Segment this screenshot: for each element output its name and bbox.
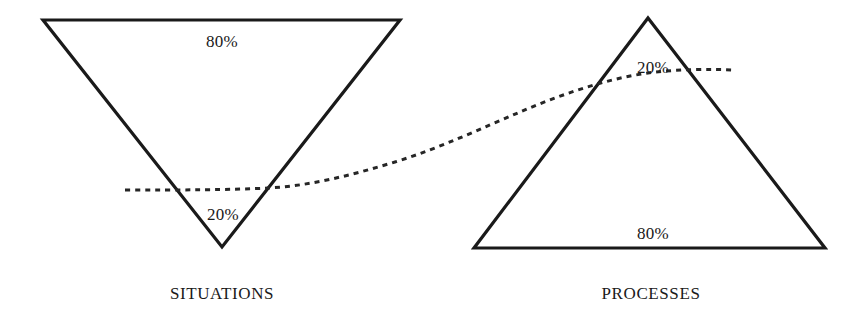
processes-triangle	[474, 18, 825, 248]
situations-caption: SITUATIONS	[170, 285, 274, 302]
connector-dotted-curve	[125, 69, 733, 190]
processes-caption: PROCESSES	[602, 285, 701, 302]
figure-root: 80% 20% 20% 80% SITUATIONS PROCESSES	[0, 0, 865, 319]
processes-top-percent-label: 20%	[637, 59, 669, 76]
figure-canvas	[0, 0, 865, 319]
situations-bottom-percent-label: 20%	[207, 206, 239, 223]
processes-bottom-percent-label: 80%	[637, 225, 669, 242]
situations-top-percent-label: 80%	[206, 33, 238, 50]
